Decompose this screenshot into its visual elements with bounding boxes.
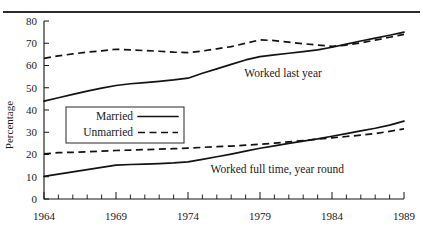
annotations-group: Worked last yearWorked full time, year r… bbox=[211, 67, 345, 177]
figure-container: 01020304050607080 1964196919741979198419… bbox=[0, 0, 423, 234]
y-tick-label: 10 bbox=[26, 171, 38, 183]
y-tick-label: 30 bbox=[26, 126, 38, 138]
y-tick-label: 40 bbox=[26, 104, 38, 116]
legend-item-married-label: Married bbox=[96, 110, 133, 122]
y-axis-title: Percentage bbox=[3, 101, 15, 149]
y-tick-label: 80 bbox=[26, 15, 38, 27]
chart-annotation-1: Worked full time, year round bbox=[211, 163, 345, 176]
chart-canvas: 01020304050607080 1964196919741979198419… bbox=[0, 0, 423, 234]
x-tick-label: 1979 bbox=[249, 210, 272, 222]
y-tick-label: 50 bbox=[26, 82, 38, 94]
x-tick-label: 1974 bbox=[177, 210, 200, 222]
x-tick-label: 1964 bbox=[33, 210, 56, 222]
y-axis-tick-labels: 01020304050607080 bbox=[26, 15, 38, 205]
chart-legend: Married Unmarried bbox=[66, 107, 184, 143]
series-line-0 bbox=[44, 32, 404, 101]
x-axis-tick-labels: 196419691974197919841989 bbox=[33, 210, 416, 222]
y-axis-ticks bbox=[44, 21, 49, 199]
chart-annotation-0: Worked last year bbox=[244, 67, 322, 80]
y-tick-label: 70 bbox=[26, 37, 38, 49]
y-tick-label: 20 bbox=[26, 148, 38, 160]
x-tick-label: 1984 bbox=[321, 210, 344, 222]
legend-item-unmarried-label: Unmarried bbox=[83, 126, 133, 138]
axes-group: 01020304050607080 1964196919741979198419… bbox=[3, 15, 416, 222]
x-tick-label: 1989 bbox=[393, 210, 416, 222]
y-tick-label: 0 bbox=[32, 193, 38, 205]
series-line-1 bbox=[44, 34, 404, 58]
y-tick-label: 60 bbox=[26, 59, 38, 71]
series-group bbox=[44, 32, 404, 176]
x-axis-minor-ticks bbox=[44, 192, 404, 199]
x-tick-label: 1969 bbox=[105, 210, 128, 222]
